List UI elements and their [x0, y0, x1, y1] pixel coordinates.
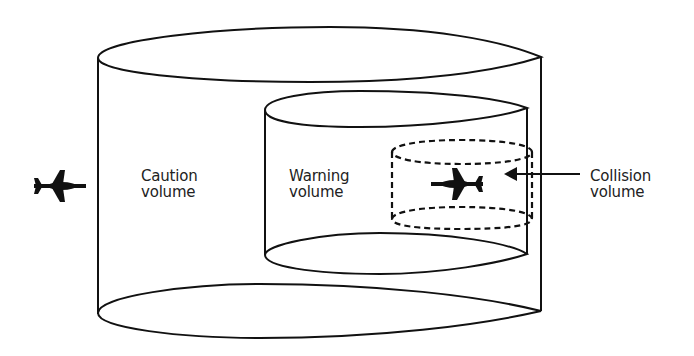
warning-label-line1: Warning [289, 168, 349, 184]
collision-label-line2: volume [590, 184, 651, 200]
warning-volume-label: Warning volume [289, 168, 349, 200]
caution-label-line1: Caution [141, 168, 198, 184]
airplane-icon [431, 168, 483, 200]
collision-label-line1: Collision [590, 168, 651, 184]
airplane-icon [34, 170, 86, 202]
caution-label-line2: volume [141, 184, 198, 200]
caution-volume-label: Caution volume [141, 168, 198, 200]
collision-volume-label: Collision volume [590, 168, 651, 200]
warning-label-line2: volume [289, 184, 349, 200]
